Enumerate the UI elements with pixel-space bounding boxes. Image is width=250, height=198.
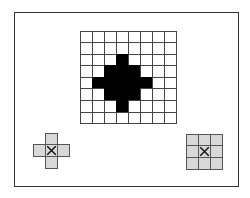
empty-cell — [164, 112, 177, 125]
cross-structuring-element — [33, 133, 69, 168]
x-mark-icon — [47, 146, 56, 155]
x-mark-icon — [200, 147, 209, 156]
main-binary-grid — [80, 31, 176, 124]
square-structuring-element — [186, 134, 222, 169]
blank-cell — [57, 156, 70, 169]
element-cell — [210, 157, 223, 170]
